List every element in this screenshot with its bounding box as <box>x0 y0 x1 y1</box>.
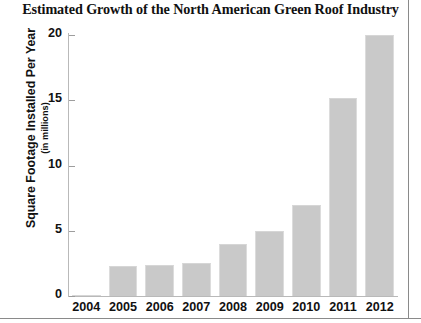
y-tick-mark <box>69 35 75 36</box>
x-tick-label-2006: 2006 <box>141 300 178 314</box>
y-tick-label: 0 <box>32 287 62 301</box>
bar-2010 <box>292 205 321 296</box>
x-axis-line <box>68 296 398 297</box>
bar-2004 <box>72 295 101 296</box>
x-tick-label-2008: 2008 <box>215 300 252 314</box>
bar-2005 <box>109 266 138 296</box>
bar-2009 <box>255 231 284 296</box>
y-tick-mark <box>69 231 75 232</box>
x-tick-label-2005: 2005 <box>105 300 142 314</box>
y-tick-mark <box>69 100 75 101</box>
bottom-border-rule <box>0 318 421 319</box>
chart-title: Estimated Growth of the North American G… <box>18 1 403 18</box>
x-tick-label-2012: 2012 <box>361 300 398 314</box>
plot-area <box>68 35 395 296</box>
x-tick-label-2010: 2010 <box>288 300 325 314</box>
bar-2006 <box>145 265 174 296</box>
x-tick-label-2004: 2004 <box>68 300 105 314</box>
y-tick-label: 15 <box>32 91 62 105</box>
x-tick-label-2011: 2011 <box>325 300 362 314</box>
y-tick-label: 10 <box>32 157 62 171</box>
y-tick-label: 5 <box>32 222 62 236</box>
bar-2011 <box>329 98 358 296</box>
bar-2007 <box>182 263 211 296</box>
bar-2008 <box>219 244 248 296</box>
y-tick-label: 20 <box>32 26 62 40</box>
right-border-rule <box>408 0 409 318</box>
y-tick-mark <box>69 166 75 167</box>
x-tick-label-2009: 2009 <box>251 300 288 314</box>
x-tick-label-2007: 2007 <box>178 300 215 314</box>
chart-figure: Estimated Growth of the North American G… <box>0 0 421 323</box>
bar-2012 <box>365 35 394 296</box>
y-tick-mark <box>69 296 75 297</box>
y-axis-ticks: 05101520 <box>28 0 62 323</box>
